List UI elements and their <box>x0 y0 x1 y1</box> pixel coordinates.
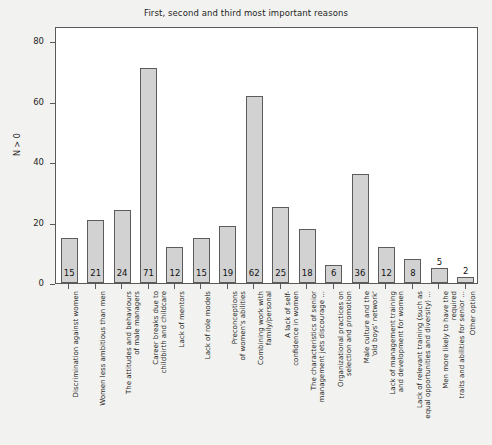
bar: 15 <box>193 238 210 283</box>
x-axis-tick-label: The attitudes and behaviours of male man… <box>125 291 141 419</box>
x-axis-tick-mark <box>306 284 307 289</box>
x-axis-tick-label: Preconceptions of women's abilities <box>231 291 247 419</box>
bar: 12 <box>378 247 395 283</box>
x-axis-tick-label: Lack of management training and developm… <box>389 291 405 419</box>
y-axis-tick-label: 20 <box>33 218 44 228</box>
x-axis-tick-mark <box>148 284 149 289</box>
y-axis-tick: 80 <box>0 42 55 43</box>
x-axis-tick-label: Male culture and the 'old boys' network' <box>363 291 379 419</box>
x-axis-tick-mark <box>438 284 439 289</box>
x-axis-tick-mark <box>359 284 360 289</box>
chart-title: First, second and third most important r… <box>0 8 492 18</box>
bar-value-label: 25 <box>273 268 288 278</box>
y-axis-tick-label: 40 <box>33 157 44 167</box>
x-axis-tick-mark <box>465 284 466 289</box>
y-axis-tick: 60 <box>0 103 55 104</box>
x-axis-tick-mark <box>253 284 254 289</box>
bar-value-label: 71 <box>141 268 156 278</box>
x-axis-tick-label: A lack of self- confidence in women <box>284 291 300 419</box>
bar-value-label: 5 <box>432 257 447 267</box>
y-axis-tick-mark <box>50 284 55 285</box>
bar: 15 <box>61 238 78 283</box>
bar: 6 <box>325 265 342 283</box>
x-axis-tick-label: Lack of relevant training (such as equal… <box>416 291 432 419</box>
x-axis-tick-mark <box>121 284 122 289</box>
bar-value-label: 15 <box>194 268 209 278</box>
x-axis-tick-label: Combining work with family/personal <box>257 291 273 419</box>
bar-value-label: 8 <box>405 268 420 278</box>
bar-value-label: 2 <box>458 266 473 276</box>
y-axis-tick-label: 80 <box>33 36 44 46</box>
bar: 12 <box>166 247 183 283</box>
x-axis-tick-label: Lack of role models <box>204 291 212 419</box>
y-axis-tick: 0 <box>0 284 55 285</box>
bar-value-label: 12 <box>167 268 182 278</box>
x-axis-tick-label: Women less ambitious than men <box>99 291 107 419</box>
bar-value-label: 24 <box>115 268 130 278</box>
chart-screenshot: First, second and third most important r… <box>0 0 492 445</box>
bar: 36 <box>352 174 369 283</box>
y-axis-label: N > 0 <box>13 115 22 175</box>
bar: 21 <box>87 220 104 283</box>
bar-value-label: 15 <box>62 268 77 278</box>
bar: 25 <box>272 207 289 283</box>
x-axis-tick-label: Career breaks due to childbirth and chil… <box>152 291 168 419</box>
bar-value-label: 19 <box>220 268 235 278</box>
x-axis-tick-label: Lack of mentors <box>178 291 186 419</box>
x-axis-tick-mark <box>174 284 175 289</box>
bar-value-label: 62 <box>247 268 262 278</box>
x-axis-tick-mark <box>200 284 201 289</box>
x-axis-tick-mark <box>280 284 281 289</box>
bar: 8 <box>404 259 421 283</box>
bar: 24 <box>114 210 131 283</box>
x-axis-tick-label: Other option <box>469 291 477 419</box>
bar-value-label: 6 <box>326 268 341 278</box>
y-axis-tick: 40 <box>0 163 55 164</box>
bar-value-label: 12 <box>379 268 394 278</box>
x-axis-tick-label: The characteristics of senior management… <box>310 291 326 419</box>
bar: 5 <box>431 268 448 283</box>
bar: 62 <box>246 96 263 283</box>
bar: 2 <box>457 277 474 283</box>
x-axis-tick-label: Men more likely to have the required tra… <box>442 291 467 419</box>
x-axis-tick-mark <box>412 284 413 289</box>
bar: 18 <box>299 229 316 283</box>
x-axis-tick-mark <box>333 284 334 289</box>
bar: 19 <box>219 226 236 283</box>
y-axis-tick-label: 60 <box>33 97 44 107</box>
x-axis-tick-label: Organizational practices on selection an… <box>337 291 353 419</box>
plot-area: 1521247112151962251863612852 <box>55 27 478 284</box>
x-axis-tick-mark <box>95 284 96 289</box>
y-axis-tick-label: 0 <box>39 278 44 288</box>
x-axis-tick-label: Discrimination against women <box>72 291 80 419</box>
bar-value-label: 18 <box>300 268 315 278</box>
y-axis-tick: 20 <box>0 224 55 225</box>
bar: 71 <box>140 68 157 283</box>
x-axis-tick-mark <box>385 284 386 289</box>
bar-value-label: 21 <box>88 268 103 278</box>
bar-value-label: 36 <box>353 268 368 278</box>
x-axis-tick-mark <box>227 284 228 289</box>
x-axis-tick-mark <box>68 284 69 289</box>
